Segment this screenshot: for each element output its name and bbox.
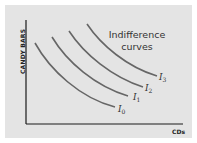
curve-label-i2: I2 <box>145 83 152 94</box>
curve-label-i0: I0 <box>118 104 125 115</box>
indifference-curve-i0 <box>35 43 115 107</box>
annotation-line-1: Indifference <box>107 29 167 41</box>
annotation-line-2: curves <box>107 41 167 53</box>
annotation: Indifference curves <box>107 29 167 53</box>
x-axis-label: CDs <box>172 128 185 135</box>
y-axis-label-box: CANDY BARS <box>5 20 45 60</box>
curve-label-i3: I3 <box>159 72 166 83</box>
y-axis-label: CANDY BARS <box>19 29 26 74</box>
curve-label-i1: I1 <box>133 92 140 103</box>
